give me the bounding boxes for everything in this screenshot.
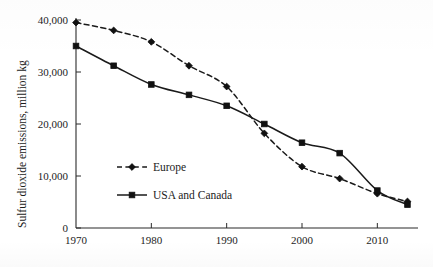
y-tick-label: 0 [63,222,69,234]
x-tick-label: 1980 [140,234,163,246]
legend-item-usa-and-canada: USA and Canada [117,189,232,201]
y-tick-label: 40,000 [38,14,69,26]
series-usa-and-canada [73,43,410,207]
square-marker-icon [186,92,192,98]
diamond-marker-icon [148,38,155,45]
square-marker-icon [262,121,268,127]
x-tick-label: 2010 [366,234,389,246]
square-marker-icon [375,188,381,194]
square-marker-icon [337,150,343,156]
x-tick-label: 1990 [216,234,239,246]
square-marker-icon [224,103,230,109]
y-tick-label: 10,000 [38,170,69,182]
diamond-marker-icon [186,62,193,69]
diamond-marker-icon [110,27,117,34]
square-marker-icon [129,192,135,198]
square-marker-icon [299,140,305,146]
y-tick-label: 20,000 [38,118,69,130]
x-tick-label: 2000 [291,234,314,246]
square-marker-icon [111,63,117,69]
y-tick-label: 30,000 [38,66,69,78]
x-tick-label: 1970 [65,234,88,246]
legend-item-europe: Europe [117,161,186,174]
legend-label: USA and Canada [153,189,232,201]
square-marker-icon [405,202,411,208]
chart-figure: Sulfur dioxide emissions, million kg 010… [0,0,433,267]
diamond-marker-icon [336,175,343,182]
legend-label: Europe [153,161,186,174]
series-layer [73,19,411,207]
chart-legend: EuropeUSA and Canada [117,161,232,201]
line-chart-canvas: Sulfur dioxide emissions, million kg 010… [0,0,433,267]
square-marker-icon [73,43,79,49]
square-marker-icon [149,82,155,88]
y-axis-title-group: Sulfur dioxide emissions, million kg [16,60,29,228]
series-line [76,46,407,205]
diamond-marker-icon [129,164,136,171]
y-axis-title: Sulfur dioxide emissions, million kg [16,60,29,228]
x-axis-ticks: 19701980199020002010 [65,223,389,246]
